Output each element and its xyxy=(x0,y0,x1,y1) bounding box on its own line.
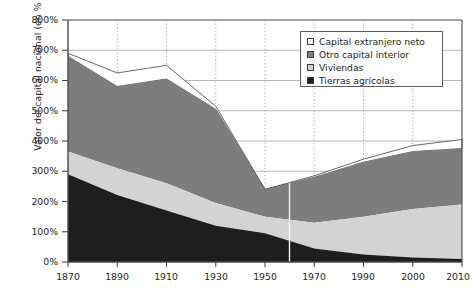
legend-swatch-tierras-agricolas xyxy=(307,77,314,84)
legend-item-viviendas[interactable]: Viviendas xyxy=(307,61,442,74)
x-tick-label-1910: 1910 xyxy=(146,271,186,282)
legend-item-tierras-agricolas[interactable]: Tierras agrícolas xyxy=(307,74,442,87)
x-tick-label-2010: 2010 xyxy=(440,271,476,282)
y-tick-label-300: 300% xyxy=(18,165,58,176)
y-tick-label-500: 500% xyxy=(18,105,58,116)
x-tick-label-1930: 1930 xyxy=(196,271,236,282)
x-tick-label-1970: 1970 xyxy=(294,271,334,282)
y-tick-label-700: 700% xyxy=(18,44,58,55)
y-tick-label-800: 800% xyxy=(18,14,58,25)
y-axis-ticks xyxy=(62,20,68,262)
legend-item-otro-capital-interior[interactable]: Otro capital interior xyxy=(307,48,442,61)
legend-label-otro-capital-interior: Otro capital interior xyxy=(319,49,409,60)
legend-label-tierras-agricolas: Tierras agrícolas xyxy=(319,75,395,86)
y-tick-label-0: 0% xyxy=(18,256,58,267)
legend-label-viviendas: Viviendas xyxy=(319,62,363,73)
x-tick-label-1870: 1870 xyxy=(48,271,88,282)
x-tick-label-2000: 2000 xyxy=(393,271,433,282)
y-tick-label-600: 600% xyxy=(18,74,58,85)
x-tick-label-1890: 1890 xyxy=(97,271,137,282)
y-tick-label-400: 400% xyxy=(18,135,58,146)
x-axis-ticks xyxy=(68,262,462,267)
x-tick-label-1990: 1990 xyxy=(343,271,383,282)
legend-swatch-viviendas xyxy=(307,64,314,71)
legend-item-capital-extranjero-neto[interactable]: Capital extranjero neto xyxy=(307,35,442,48)
chart-legend: Capital extranjero neto Otro capital int… xyxy=(300,31,443,87)
legend-swatch-otro-capital-interior xyxy=(307,51,314,58)
legend-swatch-capital-extranjero-neto xyxy=(307,38,314,45)
y-tick-label-200: 200% xyxy=(18,196,58,207)
y-tick-label-100: 100% xyxy=(18,226,58,237)
chart-figure: Valor del capital nacional (en % del ing… xyxy=(0,0,476,290)
x-tick-label-1950: 1950 xyxy=(245,271,285,282)
legend-label-capital-extranjero-neto: Capital extranjero neto xyxy=(319,36,425,47)
